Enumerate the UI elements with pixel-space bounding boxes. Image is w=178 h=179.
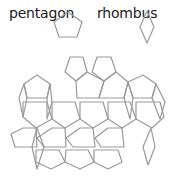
rhombus-icon bbox=[140, 11, 154, 43]
tile-pentagon bbox=[94, 150, 122, 169]
tile-pentagon bbox=[66, 128, 95, 147]
tile-pentagon bbox=[99, 72, 128, 98]
tile-pentagon bbox=[52, 102, 80, 128]
tiling-diagram bbox=[0, 0, 178, 179]
pentagon-icon bbox=[54, 12, 82, 37]
tile-pentagon bbox=[65, 150, 94, 169]
tile-pentagon bbox=[65, 57, 87, 81]
tile-pentagon bbox=[92, 57, 116, 81]
tile-rhombus bbox=[143, 128, 155, 165]
tile-pentagon bbox=[24, 75, 50, 98]
legend-shapes bbox=[54, 11, 154, 43]
tile-pentagon bbox=[37, 128, 66, 147]
tile-rhombus bbox=[124, 82, 133, 119]
tile-pentagon bbox=[136, 102, 164, 128]
tile-rhombus bbox=[47, 84, 52, 119]
pentagon-rhombus-tiling bbox=[11, 57, 165, 169]
tile-pentagon bbox=[80, 102, 108, 128]
tile-pentagon bbox=[95, 128, 124, 147]
